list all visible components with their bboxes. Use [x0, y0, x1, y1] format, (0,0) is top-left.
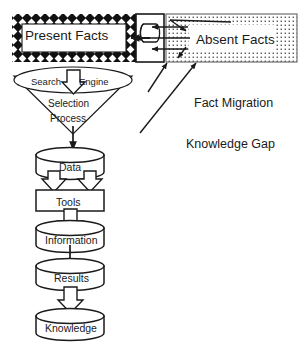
knowledge-gap-diagram — [0, 0, 305, 357]
information-cylinder-top — [36, 221, 104, 236]
tools-node — [36, 190, 104, 211]
knowledge-cylinder-top — [36, 309, 104, 324]
absent-facts-label-plate — [189, 25, 275, 51]
data-cylinder-top — [36, 148, 104, 163]
results-cylinder-top — [36, 259, 104, 274]
fact-migration-leader-line — [148, 63, 167, 92]
present-facts-inner-box — [22, 24, 126, 52]
search-engine-funnel — [14, 67, 132, 150]
results-node — [36, 259, 104, 291]
knowledge-node — [36, 309, 104, 341]
knowledge-gap-leader-line — [140, 63, 196, 133]
present-facts-node — [12, 14, 136, 62]
